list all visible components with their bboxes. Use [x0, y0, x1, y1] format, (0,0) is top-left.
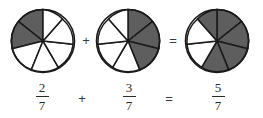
fraction-equation-row: 2 7 + 3 7 = 5 7	[0, 78, 263, 118]
plus-operator-diagram: +	[78, 34, 94, 47]
equals-operator-diagram: =	[165, 34, 181, 47]
fraction-denominator: 7	[201, 98, 235, 113]
plus-operator-equation: +	[74, 92, 90, 105]
pie-chart-second-addend	[94, 7, 162, 75]
fraction-numerator: 3	[112, 81, 146, 96]
fraction-bar	[212, 96, 225, 97]
fraction-numerator: 2	[25, 81, 59, 96]
fraction-second-addend: 3 7	[112, 81, 146, 112]
fraction-first-addend: 2 7	[25, 81, 59, 112]
fraction-result: 5 7	[201, 81, 235, 112]
pie-chart-first-addend	[9, 7, 77, 75]
equals-operator-equation: =	[161, 92, 177, 105]
fraction-denominator: 7	[112, 98, 146, 113]
pie-chart-sum	[183, 7, 251, 75]
fraction-bar	[36, 96, 49, 97]
pie-diagram-row: + =	[0, 0, 263, 80]
fraction-numerator: 5	[201, 81, 235, 96]
fraction-bar	[123, 96, 136, 97]
fraction-addition-figure: + =	[0, 0, 263, 118]
fraction-denominator: 7	[25, 98, 59, 113]
